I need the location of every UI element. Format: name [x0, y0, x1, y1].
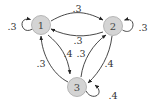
- edge-1-to-1: .3: [7, 19, 32, 31]
- edge-1-to-3: .4: [48, 35, 73, 74]
- edge-label-3-1: .3: [36, 58, 45, 69]
- edge-2-to-3: .4: [88, 36, 114, 83]
- edge-label-2-3: .4: [104, 58, 113, 69]
- node-3: 3: [68, 78, 87, 97]
- node-2: 2: [104, 17, 123, 36]
- edge-2-to-2: .3: [123, 19, 148, 32]
- edge-label-2-2: .3: [138, 22, 147, 33]
- edge-1-to-2: .3: [51, 3, 103, 22]
- edge-3-to-1: .3: [36, 36, 68, 82]
- edge-2-to-1: .3: [51, 29, 103, 46]
- edge-label-1-1: .3: [7, 21, 16, 32]
- node-label-2: 2: [110, 21, 116, 32]
- node-label-1: 1: [38, 20, 44, 31]
- self-loop-arrow-icon: [123, 19, 134, 31]
- edge-label-2-1: .3: [73, 35, 82, 46]
- self-loop-arrow-icon: [22, 19, 33, 30]
- self-loop-arrow-icon: [86, 85, 99, 96]
- arrow-icon: [51, 13, 103, 21]
- edge-3-to-3: .4: [86, 85, 118, 101]
- state-transition-diagram: .3 .3 .3 .3 .3 .4 .3 .4 .4 1: [0, 0, 151, 102]
- edge-label-3-2: .3: [76, 48, 85, 59]
- edge-label-1-3: .4: [63, 48, 72, 59]
- edge-label-3-3: .4: [108, 90, 117, 101]
- node-1: 1: [32, 16, 51, 35]
- node-label-3: 3: [74, 82, 80, 93]
- edge-label-1-2: .3: [72, 3, 81, 14]
